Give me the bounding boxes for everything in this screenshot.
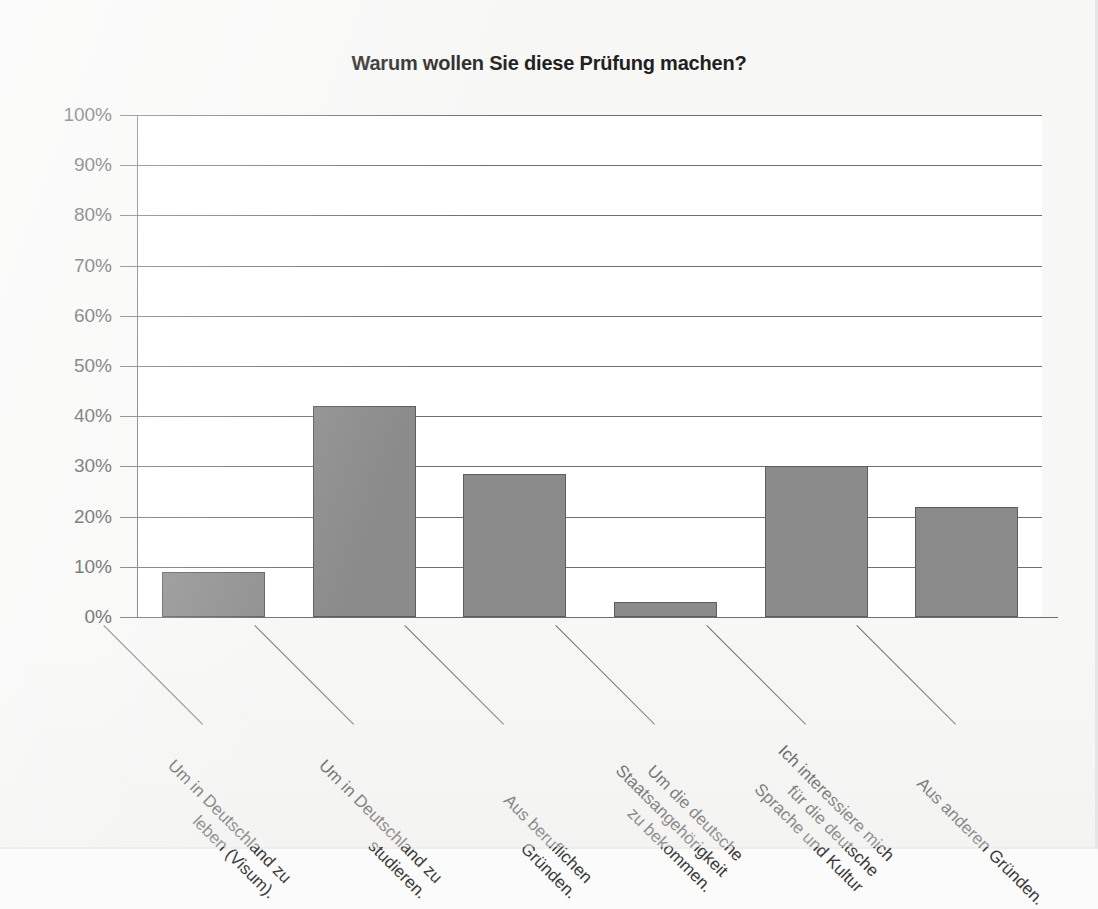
bar [915,507,1018,617]
y-tick-mark [120,366,138,367]
gridline [138,266,1042,267]
gridline [138,567,1042,568]
x-axis-labels: Um in Deutschland zu leben (Visum).Um in… [0,617,1098,849]
bar [765,466,868,617]
y-tick-mark [120,115,138,116]
bar [162,572,265,617]
x-label-group: Aus anderen Gründen. [857,617,1098,817]
y-tick-mark [120,266,138,267]
gridline [138,115,1042,116]
y-tick-mark [120,416,138,417]
y-tick-mark [120,466,138,467]
chart-title: Warum wollen Sie diese Prüfung machen? [0,52,1098,75]
gridline [138,215,1042,216]
y-tick-mark [120,567,138,568]
gridline [138,366,1042,367]
leader-line [856,625,956,725]
x-label-text: Aus anderen Gründen. [849,711,1048,909]
gridline [138,466,1042,467]
bar [313,406,416,617]
y-tick-label: 90% [42,154,112,176]
bar [463,474,566,617]
y-tick-mark [120,165,138,166]
y-tick-label: 60% [42,305,112,327]
bar [614,602,717,617]
y-tick-label: 20% [42,506,112,528]
y-tick-label: 70% [42,255,112,277]
gridline [138,165,1042,166]
y-tick-mark [120,215,138,216]
y-tick-label: 40% [42,405,112,427]
y-tick-mark [120,517,138,518]
y-tick-label: 30% [42,455,112,477]
y-tick-label: 50% [42,355,112,377]
plot-area [138,115,1042,617]
y-tick-mark [120,316,138,317]
gridline [138,316,1042,317]
y-tick-label: 80% [42,204,112,226]
y-tick-label: 100% [42,104,112,126]
gridline [138,517,1042,518]
y-tick-label: 10% [42,556,112,578]
gridline [138,416,1042,417]
